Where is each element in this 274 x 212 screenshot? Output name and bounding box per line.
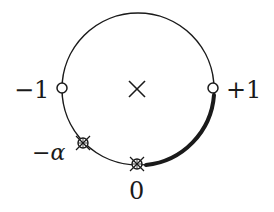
label-minus-alpha: −α (32, 140, 65, 165)
label-zero: 0 (129, 177, 144, 205)
minus-alpha-point-icon (76, 136, 90, 150)
zero-point-icon (130, 157, 144, 171)
minus-one-point-icon (57, 83, 67, 93)
plus-one-point-icon (208, 83, 218, 93)
label-minus-one: −1 (14, 76, 49, 104)
highlighted-arc (146, 95, 214, 165)
unit-circle-diagram: −1 +1 −α 0 (0, 0, 274, 212)
label-plus-one: +1 (226, 76, 261, 104)
center-cross-icon (129, 81, 145, 97)
